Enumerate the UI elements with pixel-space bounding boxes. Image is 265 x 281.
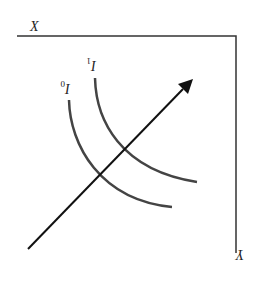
x-axis-label: X xyxy=(29,19,39,34)
axes xyxy=(17,36,236,253)
indifference-curve-i1 xyxy=(95,78,197,182)
indifference-diagram: X Y I 1 I 0 xyxy=(0,0,265,281)
svg-text:1: 1 xyxy=(87,56,92,66)
curve-label-i1: I 1 xyxy=(87,56,98,73)
expansion-arrow-line xyxy=(28,89,183,249)
svg-text:0: 0 xyxy=(60,79,65,89)
curve-label-i0: I 0 xyxy=(60,79,71,96)
